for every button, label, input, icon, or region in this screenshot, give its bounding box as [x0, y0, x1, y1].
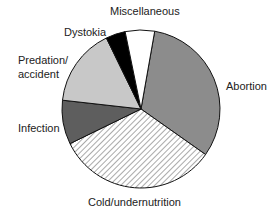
- label-abortion: Abortion: [226, 80, 267, 93]
- label-predation-line1: Predation/: [18, 54, 68, 67]
- label-miscellaneous: Miscellaneous: [110, 5, 180, 18]
- pie-chart: [0, 0, 280, 215]
- label-infection: Infection: [18, 122, 60, 135]
- label-dystokia: Dystokia: [64, 26, 106, 39]
- label-cold-undernutrition: Cold/undernutrition: [88, 196, 181, 209]
- pie-slices: [62, 30, 220, 188]
- label-predation-line2: accident: [18, 68, 59, 81]
